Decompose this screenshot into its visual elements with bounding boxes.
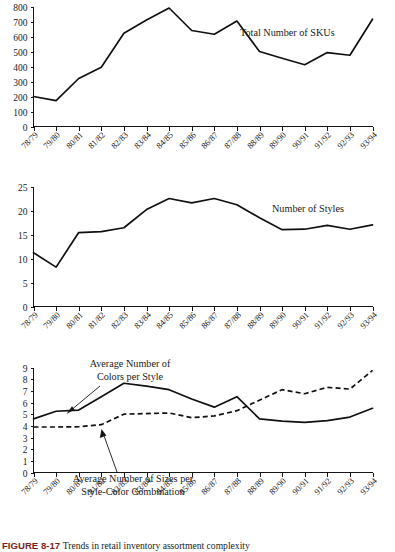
x-tick-label: 92/93 (335, 130, 356, 151)
chart-total-number-of-skus: 0100200300400500600700800 78/7979/8080/8… (0, 0, 395, 180)
chart-1-x-ticks (35, 127, 374, 131)
y-tick-label: 0 (23, 469, 28, 479)
y-tick-label: 0 (23, 123, 28, 133)
x-tick-label: 79/80 (41, 476, 62, 497)
x-tick-label: 85/86 (177, 129, 198, 150)
chart-3-y-tick-labels: 0123456789 (23, 364, 28, 479)
x-tick-label: 78/79 (19, 130, 40, 151)
chart-2-y-tick-labels: 0510152025 (18, 183, 28, 313)
leader-line-sizes (103, 433, 117, 472)
annotation-average-sizes-line1: Average Number of Sizes per (73, 473, 194, 484)
x-tick-label: 88/89 (245, 130, 266, 151)
chart-2-svg: 0510152025 78/7979/8080/8181/8282/8383/8… (0, 178, 395, 356)
y-tick-label: 100 (13, 108, 28, 118)
series-total-number-of-skus (34, 8, 373, 101)
x-tick-label: 88/89 (245, 310, 266, 331)
y-tick-label: 5 (23, 279, 28, 289)
chart-3-svg: 0123456789 78/7979/8080/8181/8282/8383/8… (0, 354, 395, 534)
chart-1-y-tick-labels: 0100200300400500600700800 (13, 3, 28, 133)
x-tick-label: 91/92 (312, 310, 333, 331)
x-tick-label: 80/81 (64, 130, 85, 151)
annotation-number-of-styles: Number of Styles (272, 203, 344, 214)
y-tick-label: 300 (13, 78, 28, 88)
chart-2-x-tick-labels: 78/7979/8080/8181/8282/8383/8484/8585/86… (19, 309, 379, 330)
chart-1-axes (31, 7, 374, 131)
chart-average-colors-and-sizes: 0123456789 78/7979/8080/8181/8282/8383/8… (0, 354, 395, 534)
figure-caption: FIGURE 8-17 Trends in retail inventory a… (2, 540, 395, 552)
x-tick-label: 79/80 (41, 310, 62, 331)
y-tick-label: 4 (23, 422, 28, 432)
chart-3-axes (31, 368, 374, 477)
x-tick-label: 88/89 (245, 476, 266, 497)
y-tick-label: 20 (18, 207, 28, 217)
y-tick-label: 10 (18, 255, 28, 265)
x-tick-label: 78/79 (19, 476, 40, 497)
x-tick-label: 87/88 (222, 310, 243, 331)
y-tick-label: 15 (18, 231, 28, 241)
x-tick-label: 93/94 (358, 475, 379, 496)
chart-1-x-tick-labels: 78/7979/8080/8181/8282/8383/8484/8585/86… (19, 129, 379, 150)
caption-number: FIGURE 8-17 (2, 540, 60, 551)
x-tick-label: 82/83 (109, 310, 130, 331)
x-tick-label: 86/87 (199, 309, 220, 330)
chart-2-x-ticks (35, 307, 374, 311)
x-tick-label: 93/94 (358, 309, 379, 330)
x-tick-label: 84/85 (154, 130, 175, 151)
x-tick-label: 89/90 (267, 310, 288, 331)
x-tick-label: 90/91 (290, 310, 311, 331)
x-tick-label: 87/88 (222, 130, 243, 151)
y-tick-label: 400 (13, 63, 28, 73)
annotation-total-number-of-skus: Total Number of SKUs (240, 27, 335, 38)
figure-container: 0100200300400500600700800 78/7979/8080/8… (0, 0, 395, 552)
chart-1-svg: 0100200300400500600700800 78/7979/8080/8… (0, 0, 395, 180)
y-tick-label: 700 (13, 18, 28, 28)
x-tick-label: 78/79 (19, 310, 40, 331)
chart-number-of-styles: 0510152025 78/7979/8080/8181/8282/8383/8… (0, 178, 395, 356)
y-tick-label: 5 (23, 410, 28, 420)
x-tick-label: 83/84 (132, 309, 153, 330)
leader-arrow-sizes (100, 429, 107, 438)
y-tick-label: 9 (23, 364, 28, 374)
y-tick-label: 0 (23, 303, 28, 313)
y-tick-label: 25 (18, 183, 28, 193)
x-tick-label: 79/80 (41, 130, 62, 151)
annotation-average-sizes-line2: Style-Color Combination (81, 486, 184, 497)
x-tick-label: 90/91 (290, 476, 311, 497)
y-tick-label: 6 (23, 399, 28, 409)
y-tick-label: 1 (23, 457, 28, 467)
x-tick-label: 84/85 (154, 310, 175, 331)
x-tick-label: 83/84 (132, 129, 153, 150)
y-tick-label: 500 (13, 48, 28, 58)
x-tick-label: 91/92 (312, 476, 333, 497)
x-tick-label: 89/90 (267, 476, 288, 497)
x-tick-label: 85/86 (177, 309, 198, 330)
y-tick-label: 8 (23, 375, 28, 385)
y-tick-label: 800 (13, 3, 28, 13)
x-tick-label: 81/82 (86, 310, 107, 331)
x-tick-label: 92/93 (335, 476, 356, 497)
x-tick-label: 92/93 (335, 310, 356, 331)
x-tick-label: 86/87 (199, 475, 220, 496)
x-tick-label: 82/83 (109, 130, 130, 151)
x-tick-label: 86/87 (199, 129, 220, 150)
annotation-average-colors-line2: Colors per Style (97, 371, 164, 382)
x-tick-label: 89/90 (267, 130, 288, 151)
y-tick-label: 200 (13, 93, 28, 103)
y-tick-label: 600 (13, 33, 28, 43)
x-tick-label: 90/91 (290, 130, 311, 151)
x-tick-label: 80/81 (64, 310, 85, 331)
x-tick-label: 87/88 (222, 476, 243, 497)
y-tick-label: 3 (23, 434, 28, 444)
annotation-average-colors-line1: Average Number of (90, 358, 171, 369)
y-tick-label: 2 (23, 445, 28, 455)
caption-text: Trends in retail inventory assortment co… (63, 540, 250, 551)
x-tick-label: 93/94 (358, 129, 379, 150)
y-tick-label: 7 (23, 387, 28, 397)
x-tick-label: 81/82 (86, 130, 107, 151)
x-tick-label: 91/92 (312, 130, 333, 151)
